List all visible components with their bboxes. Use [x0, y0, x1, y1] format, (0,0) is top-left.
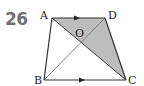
label-o: O: [75, 27, 84, 40]
label-b: B: [34, 74, 42, 86]
label-a: A: [39, 9, 49, 22]
label-d: D: [108, 9, 117, 22]
trapezoid-diagram: A D O B C: [0, 0, 144, 86]
parallel-arrow-icon: [79, 78, 85, 83]
label-c: C: [128, 74, 136, 86]
side-ba: [44, 18, 52, 80]
